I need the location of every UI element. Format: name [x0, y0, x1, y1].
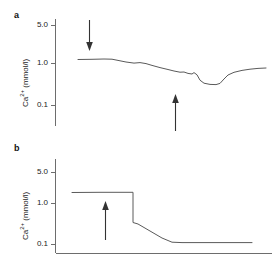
- figure-container: a Ca2+ (mmol/l) 5.0 1.0 0.1: [0, 0, 275, 268]
- panel-a: a Ca2+ (mmol/l) 5.0 1.0 0.1: [0, 0, 275, 134]
- panel-b: b Ca2+ (mmol/l) 5.0 1.0 0.1: [0, 134, 275, 268]
- panel-a-plot: [0, 0, 275, 134]
- panel-b-plot: [0, 134, 275, 268]
- panel-b-arrow-up-icon: [102, 201, 109, 240]
- panel-a-arrow-up-icon: [172, 94, 179, 131]
- panel-a-trace: [78, 59, 266, 85]
- panel-a-arrow-down-icon: [86, 20, 93, 51]
- panel-b-trace: [72, 192, 252, 242]
